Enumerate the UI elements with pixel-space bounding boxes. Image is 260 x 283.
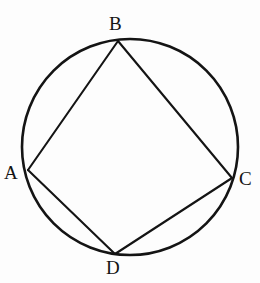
chord-BC	[118, 41, 232, 178]
vertex-label-b: B	[109, 14, 122, 33]
vertex-label-d: D	[106, 258, 120, 277]
chord-DA	[28, 170, 115, 254]
vertex-label-c: C	[239, 169, 252, 188]
figure-canvas	[0, 0, 260, 283]
vertex-label-a: A	[4, 163, 18, 182]
geometry-figure: A B C D	[0, 0, 260, 283]
chord-AB	[28, 41, 118, 170]
